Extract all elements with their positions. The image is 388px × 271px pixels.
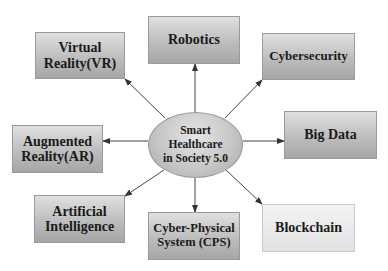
node-big-data: Big Data [284,111,377,159]
node-label: Blockchain [275,220,342,235]
arrow-to-vr [125,79,165,118]
node-cybersecurity: Cybersecurity [262,33,355,80]
node-label: Robotics [168,32,220,47]
arrow-to-blockchain [226,170,262,204]
node-virtual-reality: Virtual Reality(VR) [35,32,125,79]
hub-smart-healthcare: Smart Healthcare in Society 5.0 [148,112,243,178]
node-robotics: Robotics [148,16,240,64]
node-label: Big Data [304,127,357,142]
node-artificial-intelligence: Artificial Intelligence [34,195,125,243]
hub-label: Smart Healthcare in Society 5.0 [163,124,228,165]
node-label: Virtual Reality(VR) [44,40,116,71]
node-label: Artificial Intelligence [45,204,114,235]
node-label: Augmented Reality(AR) [21,134,93,165]
arrow-to-cybersecurity [225,80,262,118]
node-augmented-reality: Augmented Reality(AR) [12,125,103,173]
arrow-to-ai [125,170,164,196]
node-label: Cybersecurity [269,49,348,63]
diagram-canvas: Virtual Reality(VR) Robotics Cybersecuri… [0,0,388,271]
node-label: Cyber-Physical System (CPS) [153,222,234,250]
node-cyber-physical-system: Cyber-Physical System (CPS) [148,212,240,260]
node-blockchain: Blockchain [262,204,355,252]
